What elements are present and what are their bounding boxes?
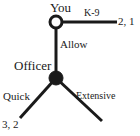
node-label-officer: Officer [14,59,51,72]
edge-label-k9: K-9 [84,8,100,18]
payoff-quick: 3, 2 [2,119,19,130]
edge-label-extensive: Extensive [76,91,115,101]
node-officer [49,71,63,85]
node-you [50,16,62,28]
payoff-k9: 2, 1 [118,16,135,27]
node-label-you: You [50,1,71,14]
edge-label-allow: Allow [60,39,88,50]
game-tree-diagram: You Officer K-9 Allow Quick Extensive 2,… [0,0,140,136]
edge-label-quick: Quick [3,91,30,102]
